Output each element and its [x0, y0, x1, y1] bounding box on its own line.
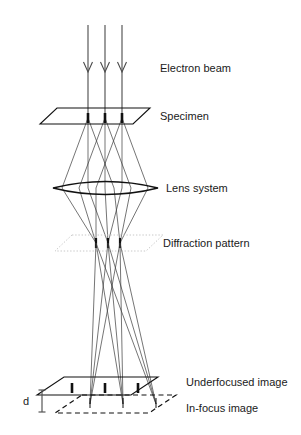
diffraction-plane-group	[55, 235, 163, 251]
underfocused-plane-group	[37, 377, 158, 395]
label-specimen: Specimen	[160, 110, 209, 122]
label-electron-beam: Electron beam	[160, 62, 231, 74]
label-underfocused-image: Underfocused image	[186, 376, 288, 388]
ray-diagram-figure: d Electron beam Specimen Lens system Dif…	[0, 0, 301, 435]
specimen-plane	[40, 108, 150, 124]
diagram-labels: Electron beam Specimen Lens system Diffr…	[160, 62, 288, 414]
in-focus-image-plane	[55, 395, 176, 413]
label-diffraction-pattern: Diffraction pattern	[163, 237, 250, 249]
ray-c-right	[122, 118, 148, 188]
defocus-dimension-group: d	[23, 390, 46, 412]
label-in-focus-image: In-focus image	[186, 402, 258, 414]
label-lens-system: Lens system	[166, 182, 228, 194]
defocus-distance-label: d	[23, 395, 29, 407]
electron-beam-group	[84, 25, 127, 119]
ray-d1-to-i2	[96, 243, 123, 404]
in-focus-plane-group	[55, 395, 176, 413]
rays-specimen-to-lens	[62, 118, 148, 188]
ray-d3-to-i3	[120, 243, 156, 404]
diagram-canvas: d Electron beam Specimen Lens system Dif…	[0, 0, 301, 435]
specimen-plane-group	[40, 108, 150, 124]
ray-a-left	[62, 118, 88, 188]
ray-b-left-2	[79, 188, 96, 243]
ray-b-right-2	[120, 188, 131, 243]
underfocused-image-plane	[37, 377, 158, 395]
rays-diffraction-to-image	[90, 243, 156, 404]
